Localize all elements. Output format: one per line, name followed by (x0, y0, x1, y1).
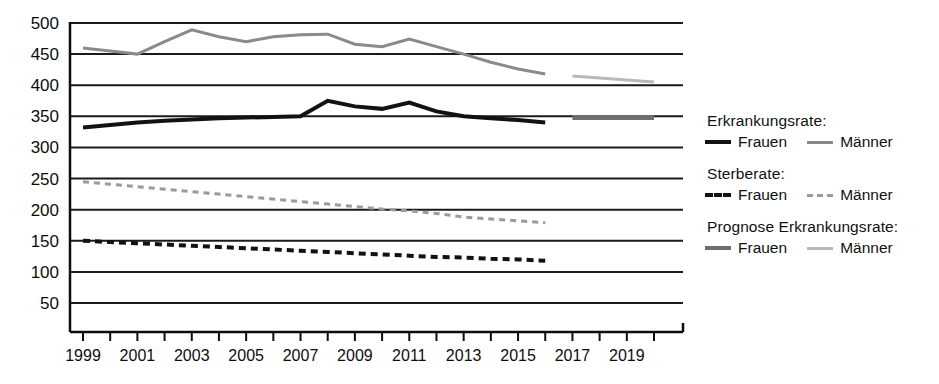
y-axis-label-100: 100 (31, 263, 59, 282)
x-axis-label-2011: 2011 (392, 347, 427, 364)
x-axis-label-2017: 2017 (555, 347, 591, 364)
y-axis-label-150: 150 (31, 232, 59, 251)
legend-entry-frauen[interactable]: Frauen (705, 186, 787, 204)
x-axis-label-2015: 2015 (500, 347, 536, 364)
legend-group-title: Prognose Erkrankungsrate: (707, 218, 939, 236)
y-axis-label-250: 250 (31, 170, 59, 189)
series-line-sterberate-frauen (83, 241, 545, 261)
axes (70, 22, 683, 341)
x-axis-label-2013: 2013 (446, 347, 482, 364)
x-axis-label-2001: 2001 (120, 347, 156, 364)
legend-group-3: Prognose Erkrankungsrate:FrauenMänner (705, 218, 939, 257)
legend-label: Männer (840, 239, 893, 257)
legend-label: Frauen (738, 133, 787, 151)
legend-entry-männer[interactable]: Männer (807, 186, 893, 204)
series-line-erkrankungsrate-frauen (83, 101, 545, 128)
tick-labels: 5010015020025030035040045050019992001200… (31, 14, 645, 364)
legend-entry-frauen[interactable]: Frauen (705, 133, 787, 151)
legend-group-2: Sterberate:FrauenMänner (705, 165, 939, 204)
x-axis-label-2003: 2003 (174, 347, 210, 364)
y-axis-label-200: 200 (31, 201, 59, 220)
legend-label: Männer (840, 186, 893, 204)
series-line-prognose-erkrankungsrate-maenner (572, 76, 654, 82)
legend-label: Frauen (738, 239, 787, 257)
y-axis-label-500: 500 (31, 14, 59, 33)
legend-swatch-icon (705, 246, 731, 250)
chart-legend: Erkrankungsrate:FrauenMännerSterberate:F… (705, 112, 939, 271)
legend-swatch-icon (705, 193, 731, 197)
legend-swatch-icon (807, 141, 833, 144)
legend-label: Frauen (738, 186, 787, 204)
legend-entry-frauen[interactable]: Frauen (705, 239, 787, 257)
x-axis-label-1999: 1999 (65, 347, 101, 364)
series-line-erkrankungsrate-maenner (83, 30, 545, 74)
y-axis-label-350: 350 (31, 107, 59, 126)
y-axis-label-50: 50 (40, 294, 59, 313)
y-axis-label-300: 300 (31, 138, 59, 157)
x-axis-label-2007: 2007 (283, 347, 319, 364)
legend-swatch-icon (807, 194, 833, 197)
y-axis-label-400: 400 (31, 76, 59, 95)
legend-row: FrauenMänner (705, 239, 939, 257)
x-axis-label-2009: 2009 (337, 347, 373, 364)
legend-entry-männer[interactable]: Männer (807, 133, 893, 151)
legend-entry-männer[interactable]: Männer (807, 239, 893, 257)
legend-swatch-icon (705, 140, 731, 144)
y-axis-label-450: 450 (31, 45, 59, 64)
chart-plot-area: 5010015020025030035040045050019992001200… (0, 0, 700, 384)
legend-group-title: Erkrankungsrate: (707, 112, 939, 130)
legend-row: FrauenMänner (705, 133, 939, 151)
line-chart-svg: 5010015020025030035040045050019992001200… (0, 0, 700, 384)
legend-swatch-icon (807, 247, 833, 250)
legend-row: FrauenMänner (705, 186, 939, 204)
legend-label: Männer (840, 133, 893, 151)
series-line-sterberate-maenner (83, 182, 545, 223)
x-axis-label-2005: 2005 (228, 347, 264, 364)
gridlines (70, 23, 683, 303)
legend-group-title: Sterberate: (707, 165, 939, 183)
chart-screenshot: 5010015020025030035040045050019992001200… (0, 0, 939, 384)
data-series (83, 30, 654, 261)
x-axis-label-2019: 2019 (609, 347, 645, 364)
legend-group-1: Erkrankungsrate:FrauenMänner (705, 112, 939, 151)
